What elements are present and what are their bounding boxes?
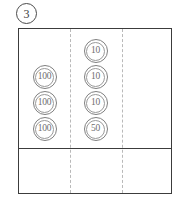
place-value-box: 100 100 100 10 10 10 50 — [18, 28, 172, 194]
coin[interactable]: 100 — [33, 117, 57, 141]
coin-value-label: 100 — [38, 72, 51, 82]
coin-value-label: 100 — [38, 98, 51, 108]
coin[interactable]: 100 — [33, 91, 57, 115]
coin[interactable]: 10 — [84, 91, 108, 115]
coin-value-label: 10 — [91, 46, 100, 56]
coin[interactable]: 100 — [33, 65, 57, 89]
coin[interactable]: 50 — [84, 117, 108, 141]
problem-number-label: 3 — [24, 8, 30, 20]
coin-value-label: 100 — [38, 124, 51, 134]
coin-column-ones — [122, 29, 173, 148]
coin-value-label: 10 — [91, 72, 100, 82]
coin-value-label: 50 — [91, 124, 100, 134]
coin-value-label: 10 — [91, 98, 100, 108]
problem-number-badge: 3 — [16, 3, 37, 24]
coin[interactable]: 10 — [84, 65, 108, 89]
coin[interactable]: 10 — [84, 39, 108, 63]
coin-column-hundreds: 100 100 100 — [19, 29, 70, 148]
worksheet: 3 100 100 100 10 10 10 — [0, 0, 183, 208]
row-divider-answer-line — [19, 148, 171, 149]
coin-column-tens: 10 10 10 50 — [70, 29, 121, 148]
